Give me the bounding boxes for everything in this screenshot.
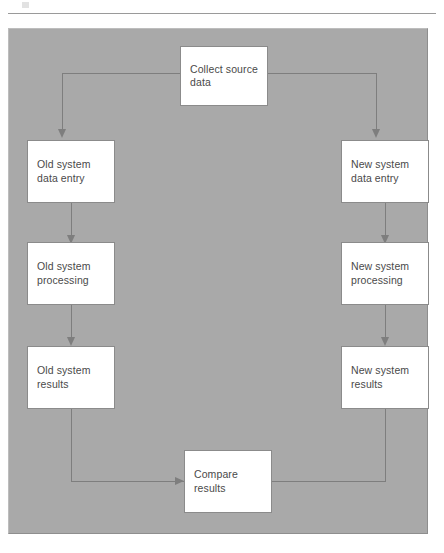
node-new-system-results[interactable]: New system results (341, 346, 429, 409)
scan-artifact (22, 2, 29, 8)
node-new-system-data-entry[interactable]: New system data entry (341, 140, 429, 203)
node-compare-results[interactable]: Compare results (184, 450, 272, 513)
node-old-system-results-label: Old system results (28, 364, 96, 391)
edge-new-processing-to-results (385, 305, 386, 341)
node-collect-source-data-label: Collect source data (181, 63, 263, 90)
edge-new-entry-to-processing (385, 203, 386, 239)
node-new-system-results-label: New system results (342, 364, 414, 391)
arrowhead-collect-to-old (58, 129, 66, 138)
arrowhead-collect-to-new (372, 129, 380, 138)
arrowhead-old-results-to-compare (175, 477, 184, 485)
arrowhead-old-processing-to-results (67, 337, 75, 346)
figure-root: Collect source data Old system data entr… (0, 0, 444, 553)
node-new-system-data-entry-label: New system data entry (342, 158, 414, 185)
edge-old-entry-to-processing (71, 203, 72, 239)
horizontal-rule (8, 13, 436, 14)
node-old-system-results[interactable]: Old system results (27, 346, 115, 409)
edge-new-results-to-compare-vertical (385, 409, 386, 481)
node-new-system-processing[interactable]: New system processing (341, 242, 429, 305)
edge-old-processing-to-results (71, 305, 72, 341)
edge-old-results-to-compare-vertical (71, 409, 72, 481)
node-old-system-processing-label: Old system processing (28, 260, 96, 287)
edge-new-results-to-compare-horizontal (272, 481, 386, 482)
flowchart-panel: Collect source data Old system data entr… (8, 28, 428, 534)
node-collect-source-data[interactable]: Collect source data (180, 46, 268, 106)
node-old-system-data-entry[interactable]: Old system data entry (27, 140, 115, 203)
node-compare-results-label: Compare results (185, 468, 243, 495)
arrowhead-new-processing-to-results (381, 337, 389, 346)
edge-collect-to-new-vertical (376, 73, 377, 131)
edge-old-results-to-compare-horizontal (71, 481, 184, 482)
edge-collect-to-old-vertical (62, 73, 63, 131)
node-old-system-data-entry-label: Old system data entry (28, 158, 96, 185)
node-new-system-processing-label: New system processing (342, 260, 414, 287)
node-old-system-processing[interactable]: Old system processing (27, 242, 115, 305)
